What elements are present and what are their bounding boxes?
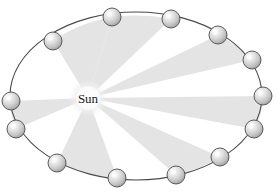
planet-4-highlight [247,54,252,59]
planet-3 [209,26,227,44]
planet-8-highlight [171,169,176,174]
planet-13 [44,32,62,50]
planet-4 [243,51,261,69]
planet-12-highlight [6,95,11,100]
sun-label-group: Sun [78,91,99,106]
planet-8 [167,166,185,184]
planet-10-body [48,154,66,172]
planet-12-body [2,92,20,110]
planet-1-highlight [107,11,112,16]
planet-7-body [211,148,229,166]
planet-5-highlight [258,90,263,95]
planet-1-body [103,8,121,26]
planet-5 [254,87,272,105]
planet-11 [7,120,25,138]
planet-10-highlight [52,157,57,162]
planet-2-body [162,10,180,28]
planet-6-highlight [249,123,254,128]
planet-8-body [167,166,185,184]
planet-10 [48,154,66,172]
planet-13-body [44,32,62,50]
planet-2-highlight [166,13,171,18]
planet-3-body [209,26,227,44]
planet-7-highlight [215,151,220,156]
planet-1 [103,8,121,26]
planet-4-body [243,51,261,69]
planet-6-body [245,120,263,138]
planet-9 [108,169,126,187]
kepler-equal-areas-figure: Sun [0,0,277,192]
planet-3-highlight [213,29,218,34]
planet-13-highlight [48,35,53,40]
planet-6 [245,120,263,138]
planet-9-body [108,169,126,187]
planet-5-body [254,87,272,105]
planet-11-body [7,120,25,138]
planet-2 [162,10,180,28]
planet-12 [2,92,20,110]
planet-9-highlight [112,172,117,177]
sun-label: Sun [78,91,99,106]
planet-7 [211,148,229,166]
orbit-diagram-canvas: Sun [0,0,277,192]
planet-11-highlight [11,123,16,128]
